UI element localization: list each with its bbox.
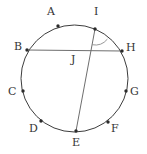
- point-label-d: D: [29, 123, 38, 134]
- angle-arc-i: [92, 39, 107, 45]
- geometry-canvas: [0, 0, 147, 154]
- circle-outline: [21, 25, 128, 132]
- point-f: [106, 120, 109, 123]
- chord-bh: [27, 50, 122, 51]
- point-label-j: J: [71, 54, 75, 65]
- angle-marks-layer: [92, 39, 107, 45]
- point-label-f: F: [111, 123, 119, 134]
- chord-ie: [76, 29, 95, 131]
- circle-geometry-figure: A B C D E F G H I J: [0, 0, 147, 154]
- point-label-e: E: [72, 137, 80, 148]
- point-c: [21, 89, 24, 92]
- point-label-b: B: [14, 41, 22, 52]
- point-e: [74, 129, 77, 132]
- point-a: [56, 24, 59, 27]
- point-g: [124, 89, 127, 92]
- point-b: [25, 48, 28, 51]
- point-label-a: A: [47, 6, 55, 17]
- point-label-i: I: [94, 6, 98, 17]
- chords-layer: [27, 29, 122, 131]
- point-label-h: H: [126, 42, 136, 53]
- circle-outline-layer: [21, 25, 128, 132]
- point-h: [120, 49, 123, 52]
- point-d: [39, 119, 42, 122]
- point-i: [93, 27, 96, 30]
- point-label-c: C: [8, 86, 16, 97]
- point-label-g: G: [130, 86, 139, 97]
